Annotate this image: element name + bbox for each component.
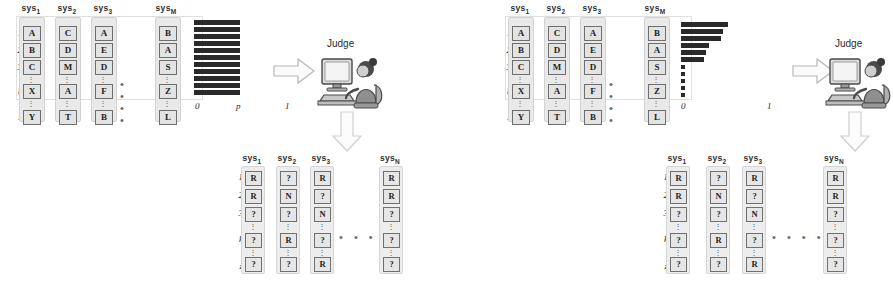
result-cell: ? [280, 171, 297, 186]
system-column-sys2: C D M ⋮ A ⋮ T [544, 17, 570, 122]
matrix-cell: C [23, 60, 41, 75]
system-column-sys2: C D M ⋮ A ⋮ T [55, 17, 81, 122]
column-header-sys1: sys1 [500, 3, 540, 15]
result-cell: R [746, 257, 763, 272]
result-vertical-dots: ⋮ [383, 223, 399, 231]
result-cell: ? [827, 233, 844, 248]
bar [194, 62, 240, 67]
judge-label: Judge [835, 38, 862, 49]
result-cell: N [280, 189, 297, 204]
matrix-cell: M [59, 60, 77, 75]
matrix-cell: Y [512, 110, 530, 125]
arrow-right-icon [272, 56, 317, 86]
result-cell: ? [710, 207, 727, 222]
result-cell: N [746, 207, 763, 222]
result-column-sys1: R R ? ⋮ ? ⋮ ? [666, 166, 690, 274]
matrix-cell: C [512, 60, 530, 75]
result-vertical-dots: ⋮ [827, 223, 843, 231]
result-cell: ? [245, 257, 262, 272]
result-cell: ? [383, 257, 400, 272]
matrix-cell: A [512, 26, 530, 41]
system-column-sys1: A B C ⋮ X ⋮ Y [19, 17, 45, 122]
bar [194, 20, 240, 25]
bar [681, 72, 685, 76]
bar [194, 90, 240, 95]
result-vertical-dots: ⋮ [670, 223, 686, 231]
matrix-cell: M [548, 60, 566, 75]
result-header-sys2: sys2 [697, 153, 737, 165]
result-cell: R [710, 233, 727, 248]
result-cell: ? [280, 207, 297, 222]
result-cell: ? [383, 233, 400, 248]
bar [194, 41, 240, 46]
result-horizontal-ellipsis: • • • • [772, 231, 825, 243]
matrix-cell: Z [159, 84, 177, 99]
result-header-sys3: sys3 [301, 153, 341, 165]
axis-tick-1: 1 [285, 101, 290, 111]
matrix-vertical-dots: ⋮ [548, 76, 564, 84]
matrix-cell: Y [23, 110, 41, 125]
result-header-sysN: sysN [814, 153, 854, 165]
matrix-cell: E [95, 43, 113, 58]
column-header-sys2: sys2 [536, 3, 576, 15]
result-cell: R [383, 189, 400, 204]
matrix-horizontal-ellipsis: • • • • [120, 78, 128, 126]
result-cell: ? [280, 257, 297, 272]
panel-left: sys1 sys2 sys3 sysM 1 2 3 k z A B C ⋮ [0, 0, 446, 295]
result-header-sysN: sysN [370, 153, 410, 165]
panel-right: sys1 sys2 sys3 sysM 1 2 3 k z A B C ⋮ X [447, 0, 893, 295]
matrix-cell: D [548, 43, 566, 58]
arrow-down-icon [838, 110, 872, 154]
distribution-chart-right [681, 22, 776, 102]
result-cell: ? [314, 189, 331, 204]
result-column-sys3: R ? N ⋮ ? ⋮ R [310, 166, 334, 274]
matrix-vertical-dots: ⋮ [584, 100, 600, 108]
figure-root: sys1 sys2 sys3 sysM 1 2 3 k z A B C ⋮ [0, 0, 893, 295]
result-cell: ? [670, 233, 687, 248]
bar [194, 34, 240, 39]
column-header-sys3: sys3 [83, 3, 123, 15]
matrix-cell: A [548, 84, 566, 99]
matrix-vertical-dots: ⋮ [648, 76, 664, 84]
result-column-sysN: R R ? ⋮ ? ⋮ ? [823, 166, 847, 274]
result-column-sys3: R ? N ⋮ ? ⋮ R [742, 166, 766, 274]
matrix-vertical-dots: ⋮ [512, 100, 528, 108]
matrix-cell: C [548, 26, 566, 41]
result-vertical-dots: ⋮ [670, 249, 686, 257]
matrix-horizontal-ellipsis: • • • • [609, 78, 617, 126]
result-vertical-dots: ⋮ [280, 223, 296, 231]
judge-label: Judge [327, 38, 354, 49]
result-vertical-dots: ⋮ [746, 249, 762, 257]
matrix-cell: A [648, 43, 666, 58]
result-cell: ? [670, 207, 687, 222]
bar [681, 22, 728, 27]
matrix-vertical-dots: ⋮ [159, 76, 175, 84]
matrix-vertical-dots: ⋮ [159, 100, 175, 108]
result-vertical-dots: ⋮ [710, 223, 726, 231]
bar [681, 93, 685, 97]
result-vertical-dots: ⋮ [710, 249, 726, 257]
result-cell: ? [314, 233, 331, 248]
matrix-cell: B [512, 43, 530, 58]
result-vertical-dots: ⋮ [280, 249, 296, 257]
bar [681, 79, 685, 83]
result-cell: ? [383, 207, 400, 222]
matrix-cell: F [95, 84, 113, 99]
column-header-sysM: sysM [635, 3, 675, 15]
axis-tick-1: 1 [767, 101, 772, 111]
result-cell: R [383, 171, 400, 186]
result-header-sys3: sys3 [733, 153, 773, 165]
matrix-vertical-dots: ⋮ [59, 76, 75, 84]
result-vertical-dots: ⋮ [314, 249, 330, 257]
bar [681, 86, 685, 90]
result-cell: ? [746, 189, 763, 204]
matrix-cell: C [59, 26, 77, 41]
column-header-sys2: sys2 [47, 3, 87, 15]
result-header-sys1: sys1 [232, 153, 272, 165]
bar [194, 83, 240, 88]
result-cell: ? [827, 257, 844, 272]
result-cell: ? [746, 233, 763, 248]
bar [194, 27, 240, 32]
matrix-cell: D [584, 60, 602, 75]
result-vertical-dots: ⋮ [245, 249, 261, 257]
